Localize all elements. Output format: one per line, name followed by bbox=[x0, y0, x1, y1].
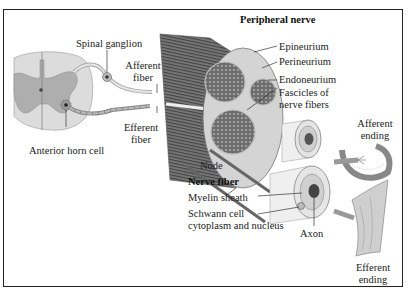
myelinated-fiber-icon bbox=[282, 120, 321, 162]
label-efferent-ending-line1: Efferent bbox=[350, 262, 396, 274]
label-epineurium: Epineurium bbox=[279, 41, 329, 53]
label-myelin-sheath: Myelin sheath bbox=[188, 192, 248, 204]
label-fascicles-line2: nerve fibers bbox=[279, 99, 329, 111]
title-peripheral-nerve: Peripheral nerve bbox=[240, 14, 316, 26]
afferent-ending-icon bbox=[334, 146, 390, 178]
label-fascicles-line1: Fascicles of bbox=[279, 87, 329, 99]
label-efferent-line1: Efferent bbox=[123, 122, 159, 134]
label-node: Node bbox=[200, 160, 223, 172]
label-afferent-line1: Afferent bbox=[125, 60, 161, 72]
label-schwann-line2: cytoplasm and nucleus bbox=[188, 220, 284, 232]
label-efferent-ending-line2: ending bbox=[350, 274, 396, 286]
label-efferent-line2: fiber bbox=[123, 134, 159, 146]
label-anterior-horn-cell: Anterior horn cell bbox=[29, 145, 104, 157]
label-perineurium: Perineurium bbox=[279, 56, 331, 68]
nerve-diagram: Peripheral nerve Spinal ganglion Afferen… bbox=[0, 0, 408, 292]
label-afferent-line2: fiber bbox=[125, 72, 161, 84]
efferent-ending-icon bbox=[334, 180, 388, 256]
label-afferent-ending-line2: ending bbox=[352, 130, 398, 142]
label-spinal-ganglion: Spinal ganglion bbox=[76, 38, 142, 50]
label-schwann-line1: Schwann cell bbox=[188, 208, 284, 220]
label-afferent-ending-line1: Afferent bbox=[352, 118, 398, 130]
label-endoneurium: Endoneurium bbox=[279, 74, 336, 86]
label-schwann-cell: Schwann cell cytoplasm and nucleus bbox=[188, 208, 284, 232]
label-afferent-fiber: Afferent fiber bbox=[125, 60, 161, 84]
label-efferent-fiber: Efferent fiber bbox=[123, 122, 159, 146]
label-efferent-ending: Efferent ending bbox=[350, 262, 396, 286]
spinal-cord-icon bbox=[14, 52, 93, 130]
label-axon: Axon bbox=[300, 228, 323, 240]
label-fascicles: Fascicles of nerve fibers bbox=[279, 87, 329, 111]
label-afferent-ending: Afferent ending bbox=[352, 118, 398, 142]
title-nerve-fiber: Nerve fiber bbox=[188, 176, 239, 188]
